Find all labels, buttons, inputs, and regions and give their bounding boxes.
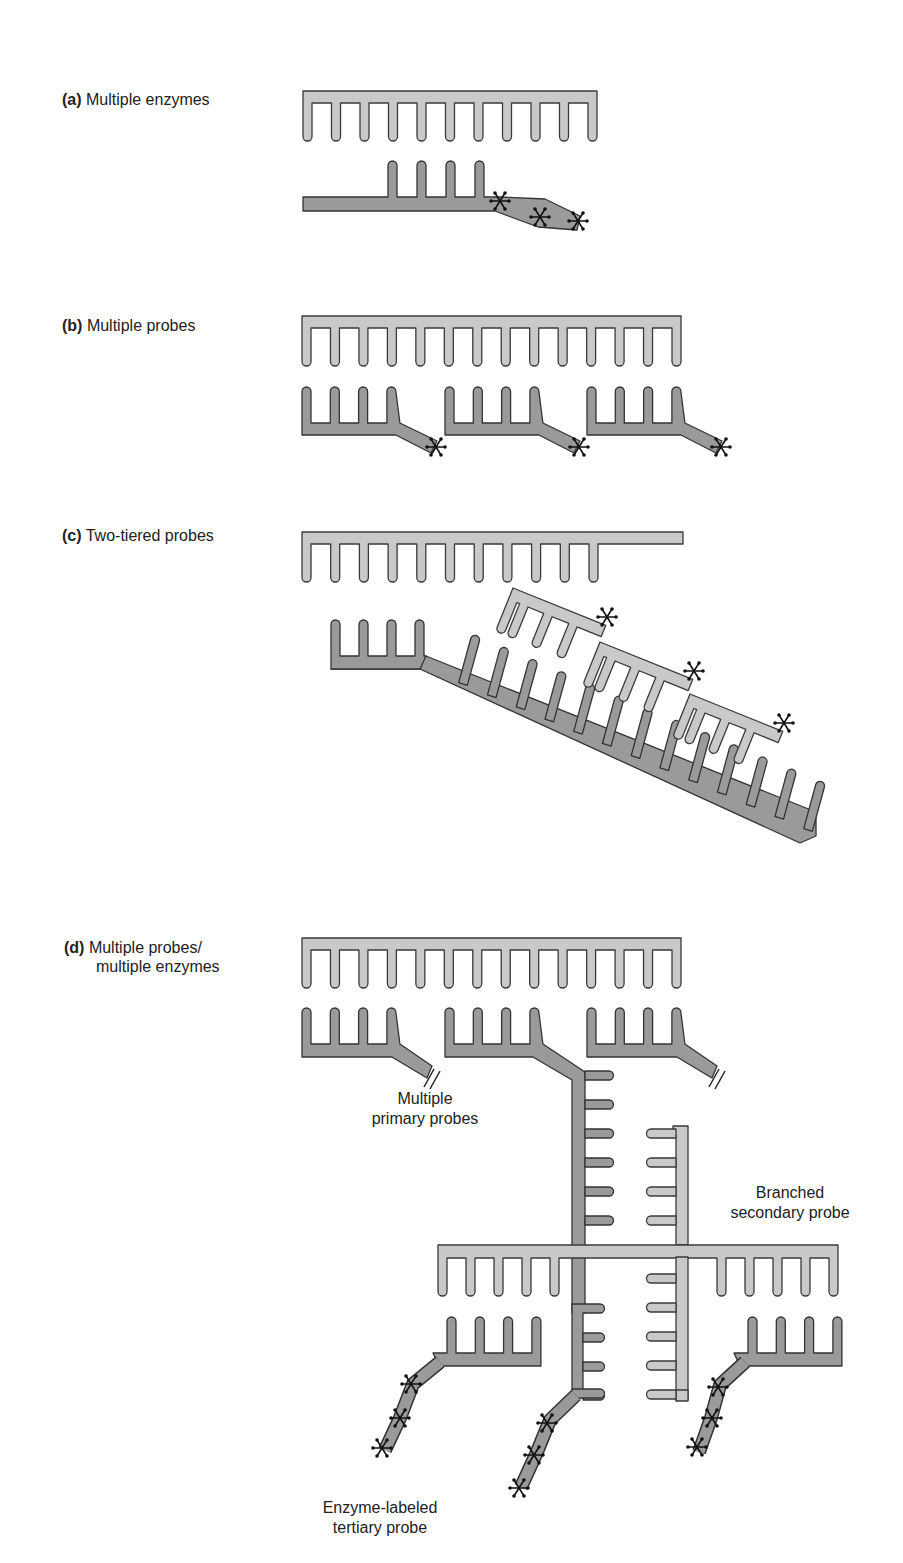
primary-probe-arm [585, 1071, 614, 1080]
primary-probe [302, 1008, 432, 1078]
secondary-probe-stem-lower [676, 1257, 688, 1400]
primary-probe-arm [585, 1129, 614, 1138]
primary-probe-arm [585, 1100, 614, 1109]
secondary-probe [583, 642, 693, 723]
secondary-probe-stem-end [676, 1390, 688, 1401]
secondary-probe-arm [647, 1129, 677, 1138]
primary-probe-arm [585, 1158, 614, 1167]
primary-probe [302, 387, 437, 453]
target-strand [302, 532, 683, 582]
secondary-probe-arm [647, 1361, 677, 1370]
primary-probe-tail-tooth [804, 781, 825, 831]
primary-probe-head [331, 620, 426, 669]
primary-probe-arm [585, 1216, 614, 1225]
secondary-probe-arm [647, 1303, 677, 1312]
secondary-probe-arm [647, 1274, 677, 1283]
primary-probe [587, 1008, 717, 1078]
tertiary-probe-tail [385, 1362, 440, 1450]
secondary-probe-backbone [438, 1245, 838, 1296]
primary-probe [445, 387, 580, 453]
tertiary-probe [734, 1317, 842, 1366]
target-strand [303, 91, 597, 141]
secondary-probe-arm [647, 1158, 677, 1167]
tertiary-probe [433, 1317, 541, 1366]
target-strand [302, 316, 681, 366]
diagram-layer [302, 91, 842, 1498]
primary-probe-arm [585, 1187, 614, 1196]
tertiary-probe-stem [572, 1304, 605, 1395]
secondary-probe-arm [647, 1332, 677, 1341]
probe-diagram [0, 0, 903, 1563]
target-strand [302, 938, 681, 988]
secondary-probe-arm [647, 1216, 677, 1225]
tertiary-probe-arm [583, 1333, 605, 1342]
secondary-probe-arm [647, 1390, 677, 1399]
tertiary-probe-arm [583, 1362, 605, 1371]
secondary-probe-stem-upper [673, 1126, 688, 1245]
primary-probe [587, 387, 722, 453]
secondary-probe-arm [647, 1187, 677, 1196]
secondary-probe [496, 588, 606, 669]
